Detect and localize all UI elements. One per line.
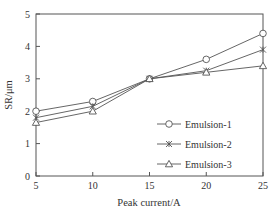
x-tick-label: 10 bbox=[88, 180, 98, 191]
legend-item: Emulsion-1 bbox=[157, 119, 232, 130]
series-group bbox=[32, 30, 266, 125]
sr-vs-peak-current-chart: 012345510152025 Emulsion-1Emulsion-2Emul… bbox=[0, 0, 278, 218]
x-tick-label: 25 bbox=[258, 180, 268, 191]
series-emulsion-3 bbox=[32, 62, 266, 125]
circle-marker-icon bbox=[203, 56, 210, 63]
series-emulsion-2 bbox=[33, 47, 266, 121]
triangle-marker-icon bbox=[259, 62, 266, 68]
plot-frame bbox=[36, 14, 263, 176]
y-axis-label: SR/μm bbox=[3, 80, 14, 110]
legend-label: Emulsion-1 bbox=[185, 119, 232, 130]
x-tick-label: 5 bbox=[34, 180, 39, 191]
y-tick-label: 5 bbox=[25, 9, 30, 20]
circle-marker-icon bbox=[33, 108, 40, 115]
series-line bbox=[36, 50, 263, 118]
series-line bbox=[36, 33, 263, 111]
legend: Emulsion-1Emulsion-2Emulsion-3 bbox=[157, 119, 232, 170]
series-emulsion-1 bbox=[33, 30, 267, 114]
y-tick-label: 3 bbox=[25, 73, 30, 84]
legend-label: Emulsion-2 bbox=[185, 139, 232, 150]
circle-marker-icon bbox=[166, 121, 173, 128]
legend-item: Emulsion-2 bbox=[157, 139, 232, 150]
y-tick-label: 4 bbox=[25, 41, 30, 52]
legend-label: Emulsion-3 bbox=[185, 159, 232, 170]
x-tick-label: 15 bbox=[145, 180, 155, 191]
y-tick-label: 1 bbox=[25, 138, 30, 149]
y-tick-label: 2 bbox=[25, 106, 30, 117]
asterisk-marker-icon bbox=[260, 47, 266, 53]
y-tick-label: 0 bbox=[25, 171, 30, 182]
x-axis-label: Peak current/A bbox=[117, 197, 181, 208]
legend-item: Emulsion-3 bbox=[157, 159, 232, 170]
circle-marker-icon bbox=[260, 30, 267, 37]
x-tick-label: 20 bbox=[201, 180, 211, 191]
